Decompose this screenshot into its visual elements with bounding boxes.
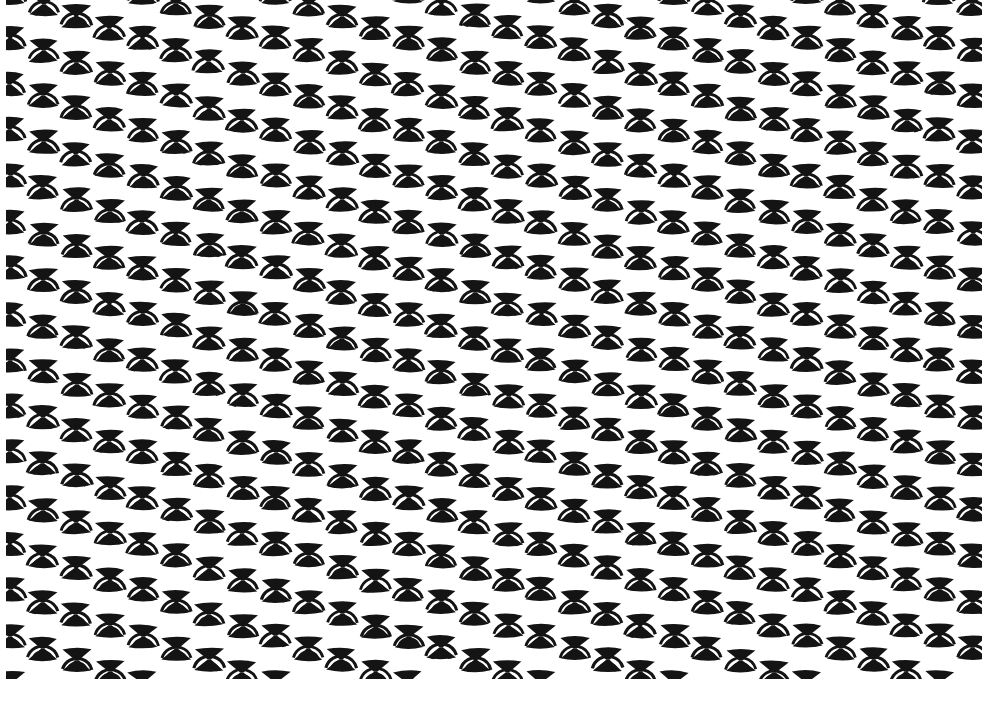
pattern-canvas [0,0,992,715]
